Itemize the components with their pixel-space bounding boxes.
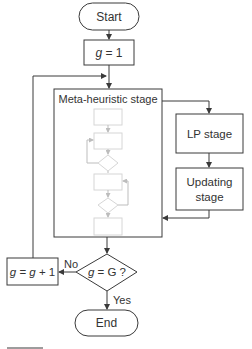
lp-stage: LP stage	[176, 114, 243, 153]
inner-box-1	[94, 109, 122, 125]
start-label: Start	[96, 10, 122, 24]
start-terminal: Start	[79, 3, 139, 30]
init-process: g = 1	[84, 40, 134, 65]
inner-box-2	[94, 133, 122, 149]
no-label: No	[64, 258, 78, 270]
init-label: g = 1	[95, 46, 122, 60]
inner-box-3	[94, 174, 122, 190]
decision-label: g = G ?	[88, 266, 126, 278]
end-label: End	[96, 316, 117, 330]
flowchart-canvas: Start g = 1 Meta-heuristic stage	[0, 0, 252, 349]
lp-stage-label: LP stage	[187, 128, 232, 140]
arrow-meta-to-lp	[162, 101, 209, 113]
updating-stage-label-line2: stage	[195, 191, 223, 203]
arrow-updating-to-meta	[163, 210, 209, 218]
updating-stage-label-line1: Updating	[186, 176, 232, 188]
increment-process: g = g + 1	[7, 258, 58, 285]
decision-diamond: g = G ?	[76, 254, 137, 291]
yes-label: Yes	[113, 294, 131, 306]
increment-label: g = g + 1	[10, 266, 55, 278]
end-terminal: End	[75, 310, 138, 336]
inner-box-4	[94, 218, 122, 235]
meta-heuristic-stage: Meta-heuristic stage	[54, 89, 162, 237]
updating-stage: Updating stage	[176, 168, 243, 210]
meta-heuristic-stage-label: Meta-heuristic stage	[58, 93, 157, 105]
